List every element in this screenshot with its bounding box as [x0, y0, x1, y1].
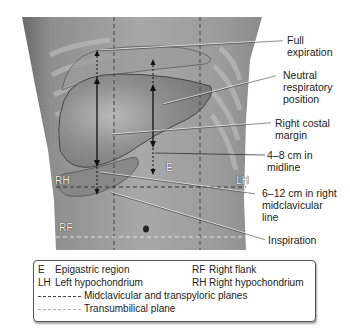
callout-midline-span: 4–8 cm in midline [267, 149, 313, 173]
region-label-e: E [166, 162, 173, 173]
callout-inspiration: Inspiration [268, 234, 316, 246]
legend-box: EEpigastric region RFRight flank LHLeft … [33, 260, 316, 322]
legend-item-e: EEpigastric region [38, 264, 129, 276]
dark-dashed-line-icon [38, 296, 81, 297]
region-label-rh: RH [55, 175, 70, 186]
legend-item-rh: RHRight hypochondrium [192, 277, 304, 289]
legend-line-transumbilical: Transumbilical plane [38, 303, 175, 315]
callout-right-costal-margin: Right costal margin [275, 117, 330, 141]
callout-neutral-respiratory: Neutral respiratory position [283, 69, 333, 105]
region-label-lh: LH [236, 175, 249, 186]
legend-item-lh: LHLeft hypochondrium [38, 277, 143, 289]
legend-item-rf: RFRight flank [192, 264, 256, 276]
umbilicus [143, 226, 149, 233]
region-label-rf: RF [59, 222, 73, 233]
legend-line-midclavicular: Midclavicular and transpyloric planes [38, 290, 247, 302]
callout-full-expiration: Full expiration [287, 34, 333, 58]
callout-mcl-span: 6–12 cm in right midclavicular line [262, 187, 337, 223]
light-dashed-line-icon [38, 309, 81, 310]
